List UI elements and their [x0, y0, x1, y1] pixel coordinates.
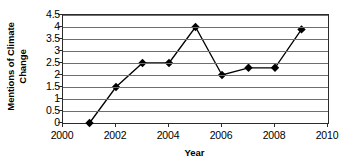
y-axis-tick-mark — [58, 38, 62, 39]
gridline-horizontal — [63, 111, 328, 112]
y-axis-title-line-2: Change — [16, 22, 28, 110]
x-axis-tick-mark — [221, 123, 222, 127]
plot-area — [62, 14, 329, 124]
y-axis-tick-mark — [58, 62, 62, 63]
gridline-horizontal — [63, 87, 328, 88]
y-axis-tick-label: 3.5 — [30, 33, 60, 43]
y-axis-tick-mark — [58, 74, 62, 75]
y-axis-tick-label: 2 — [30, 69, 60, 79]
y-axis-tick-labels: 00.511.522.533.544.5 — [30, 8, 60, 130]
y-axis-tick-mark — [58, 86, 62, 87]
gridline-horizontal — [63, 99, 328, 100]
x-axis-tick-mark — [115, 123, 116, 127]
gridline-horizontal — [63, 27, 328, 28]
y-axis-tick-label: 1.5 — [30, 81, 60, 91]
x-axis-tick-mark — [327, 123, 328, 127]
x-axis-tick-mark — [62, 123, 63, 127]
y-axis-tick-label: 1 — [30, 93, 60, 103]
x-axis-tick-label: 2004 — [157, 129, 180, 141]
chart-screenshot: Mentions of Climate Change 00.511.522.53… — [0, 0, 349, 167]
gridline-horizontal — [63, 39, 328, 40]
x-axis-title: Year — [62, 147, 327, 158]
y-axis-tick-mark — [58, 98, 62, 99]
gridline-horizontal — [63, 63, 328, 64]
x-axis-tick-label: 2008 — [263, 129, 286, 141]
y-axis-title-text: Mentions of Climate Change — [5, 22, 28, 110]
gridline-horizontal — [63, 51, 328, 52]
y-axis-tick-label: 0.5 — [30, 105, 60, 115]
y-axis-tick-label: 2.5 — [30, 57, 60, 67]
y-axis-tick-mark — [58, 26, 62, 27]
x-axis-tick-label: 2000 — [51, 129, 74, 141]
x-axis-tick-label: 2010 — [316, 129, 339, 141]
y-axis-tick-label: 4.5 — [30, 9, 60, 19]
y-axis-tick-label: 3 — [30, 45, 60, 55]
y-axis-tick-label: 4 — [30, 21, 60, 31]
x-axis-tick-mark — [274, 123, 275, 127]
x-axis-tick-label: 2002 — [104, 129, 127, 141]
series-line-chart — [63, 15, 328, 123]
y-axis-tick-mark — [58, 14, 62, 15]
y-axis-tick-label: 0 — [30, 117, 60, 127]
data-point-marker — [244, 64, 252, 72]
y-axis-title-line-1: Mentions of Climate — [5, 22, 17, 110]
x-axis-tick-mark — [168, 123, 169, 127]
gridline-horizontal — [63, 15, 328, 16]
y-axis-tick-mark — [58, 50, 62, 51]
gridline-horizontal — [63, 75, 328, 76]
y-axis-title: Mentions of Climate Change — [0, 0, 32, 133]
x-axis-tick-label: 2006 — [210, 129, 233, 141]
y-axis-tick-mark — [58, 110, 62, 111]
data-point-marker — [271, 64, 279, 72]
